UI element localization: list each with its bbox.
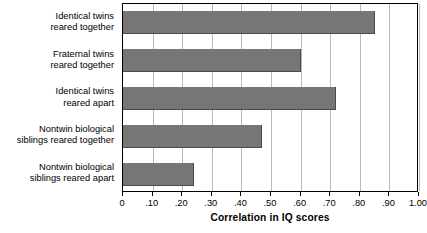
bar-series xyxy=(123,4,417,191)
tick-mark xyxy=(359,192,360,196)
bar xyxy=(123,125,262,148)
bar xyxy=(123,11,375,34)
gridline xyxy=(419,4,420,191)
tick-mark xyxy=(270,192,271,196)
bar xyxy=(123,49,301,72)
category-label: Identical twins reared together xyxy=(0,11,114,33)
category-label: Identical twins reared apart xyxy=(0,86,114,108)
category-label: Nontwin biological siblings reared toget… xyxy=(0,124,114,146)
bar xyxy=(123,163,194,186)
tick-label: .20 xyxy=(175,197,188,209)
tick-label: .60 xyxy=(293,197,306,209)
bar xyxy=(123,87,336,110)
tick-mark xyxy=(329,192,330,196)
tick-mark xyxy=(152,192,153,196)
tick-label: .90 xyxy=(382,197,395,209)
tick-label: 0 xyxy=(119,197,124,209)
tick-label: .80 xyxy=(352,197,365,209)
x-axis-title: Correlation in IQ scores xyxy=(122,212,418,223)
tick-mark xyxy=(388,192,389,196)
tick-label: .40 xyxy=(234,197,247,209)
tick-mark xyxy=(418,192,419,196)
tick-mark xyxy=(211,192,212,196)
tick-label: .10 xyxy=(145,197,158,209)
tick-label: .50 xyxy=(264,197,277,209)
tick-label: .70 xyxy=(323,197,336,209)
plot-area xyxy=(122,3,418,192)
category-label: Nontwin biological siblings reared apart xyxy=(0,162,114,184)
category-axis-labels: Identical twins reared togetherFraternal… xyxy=(0,3,118,192)
x-axis-tick-labels: 0.10.20.30.40.50.60.70.80.901.00 xyxy=(122,197,418,210)
tick-label: .30 xyxy=(204,197,217,209)
tick-label: 1.00 xyxy=(409,197,427,209)
tick-mark xyxy=(300,192,301,196)
tick-mark xyxy=(240,192,241,196)
tick-mark xyxy=(122,192,123,196)
category-label: Fraternal twins reared together xyxy=(0,49,114,71)
tick-mark xyxy=(181,192,182,196)
